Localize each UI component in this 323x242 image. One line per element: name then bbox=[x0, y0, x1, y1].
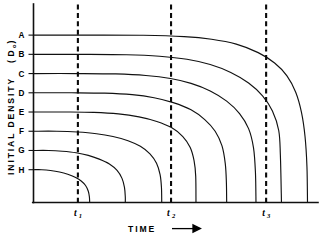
y-tick-label-d: D bbox=[18, 89, 24, 98]
reference-lines-group bbox=[78, 5, 266, 203]
reference-label-t3: t3 bbox=[262, 207, 271, 219]
y-tick-label-a: A bbox=[18, 31, 24, 40]
y-tick-label-g: G bbox=[18, 146, 25, 155]
reference-label-t2: t2 bbox=[167, 207, 176, 219]
figure-container: ABCDEFGH t1t2t3 TIME INITIAL DENSITY ( D… bbox=[0, 0, 323, 242]
y-axis-unit-symbol: D bbox=[6, 48, 16, 56]
reference-label-base-t1: t bbox=[74, 207, 77, 218]
reference-label-subscript-t3: 3 bbox=[266, 212, 271, 219]
y-axis-unit-close-paren: ) bbox=[6, 39, 16, 44]
curve-d bbox=[34, 93, 227, 203]
reference-label-t1: t1 bbox=[74, 207, 82, 219]
y-axis-title: INITIAL DENSITY bbox=[6, 77, 16, 175]
y-axis-unit-subscript: o bbox=[11, 44, 17, 48]
y-tick-label-b: B bbox=[18, 50, 24, 59]
reference-label-base-t2: t bbox=[167, 207, 170, 218]
y-axis-unit-open-paren: ( bbox=[6, 58, 16, 63]
y-axis-title-group: INITIAL DENSITY ( D o ) bbox=[6, 39, 17, 175]
reference-label-subscript-t2: 2 bbox=[171, 212, 176, 219]
x-axis-title-group: TIME bbox=[128, 224, 201, 234]
curve-g bbox=[34, 150, 126, 202]
y-tick-label-h: H bbox=[18, 166, 24, 175]
x-axis-title: TIME bbox=[128, 224, 156, 234]
x-axis-arrow-icon bbox=[172, 225, 201, 232]
curve-h bbox=[34, 170, 90, 203]
reference-line-labels: t1t2t3 bbox=[74, 207, 271, 219]
y-tick-label-c: C bbox=[18, 70, 24, 79]
reference-label-subscript-t1: 1 bbox=[79, 212, 82, 219]
y-axis-tick-labels: ABCDEFGH bbox=[18, 31, 25, 175]
y-tick-label-f: F bbox=[19, 127, 24, 136]
y-tick-label-e: E bbox=[19, 108, 25, 117]
curve-f bbox=[34, 131, 162, 202]
y-axis-unit-group: ( D o ) bbox=[6, 39, 17, 63]
initial-density-vs-time-chart: ABCDEFGH t1t2t3 TIME INITIAL DENSITY ( D… bbox=[0, 0, 323, 242]
reference-label-base-t3: t bbox=[262, 207, 265, 218]
